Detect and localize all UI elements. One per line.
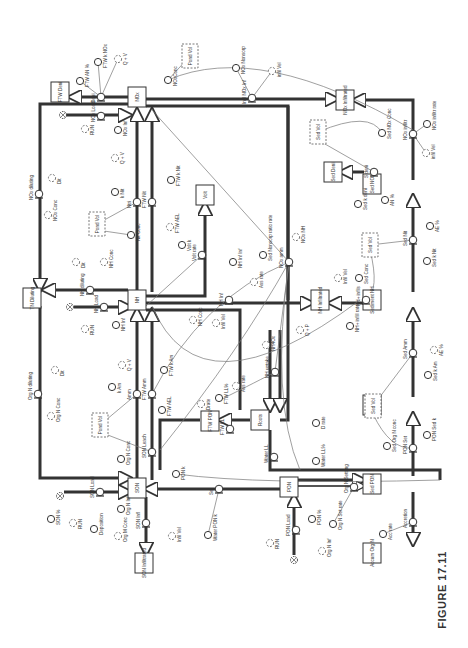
ghost-stock-pond-vol[interactable]: Pond Vol <box>92 413 108 437</box>
converter-sed-k-am[interactable]: Sed k Am <box>424 361 438 381</box>
flow-pon_set[interactable]: PON Set <box>403 435 417 454</box>
converter-org-n-inf[interactable]: Org N Inf <box>318 538 332 557</box>
converter-infil-vel[interactable]: Infil Vel <box>212 314 226 329</box>
ghost-stock-sed-vol[interactable]: Sed Vol <box>310 120 326 144</box>
converter-ftw-ael[interactable]: FTW AEL <box>158 396 172 416</box>
converter-org-m-conc[interactable]: Org M Conc <box>114 517 128 542</box>
converter-sed-nonsorp-ratio-rate[interactable]: Sed Nonsorp ratio rate <box>259 214 273 261</box>
flow-nh_load[interactable]: NH Load <box>94 294 108 313</box>
stock-son[interactable]: SON <box>128 478 146 498</box>
converter-nh-inf-inf[interactable]: NH Inf Inf <box>229 248 243 268</box>
flow-sed_amm[interactable]: Sed Amm <box>403 339 417 359</box>
converter-k-am[interactable]: k Am <box>108 383 122 393</box>
converter-nox-nh[interactable]: NOx NH <box>292 226 306 243</box>
converter-d-rate[interactable]: D rate <box>312 416 326 429</box>
ghost-stock-sed-vol[interactable]: Sed Vol <box>365 394 381 418</box>
converter-dit[interactable]: Dit <box>51 366 65 376</box>
ghost-stock-sed-vol[interactable]: Sed Vol <box>362 233 378 257</box>
converter-sed-nox-conc[interactable]: Sed NOx Conc <box>378 108 392 139</box>
stock-roots[interactable]: Roots <box>251 410 269 430</box>
converter-run[interactable]: RUN <box>81 125 95 135</box>
converter-run[interactable]: RUN <box>69 519 83 529</box>
converter-sed-conc[interactable]: Sed Conc <box>355 263 369 284</box>
flow-son_infl[interactable]: SON Infl <box>136 512 150 529</box>
ghost-stock-pond-vol[interactable]: Pond Vol <box>89 212 105 236</box>
converter-pon-k[interactable]: PON k <box>172 466 186 480</box>
converter-pon-sed-k[interactable]: PON Sed k <box>423 417 437 441</box>
stock-sed_pon[interactable]: Sed PON <box>363 474 381 494</box>
converter-nox-infiltr-rate[interactable]: NOx infiltr rate <box>423 100 437 130</box>
stock-nox[interactable]: NOx <box>128 87 146 107</box>
converter-sed-k-deni[interactable]: Sed k deni <box>354 188 368 210</box>
converter-nh-conc[interactable]: NH Conc <box>100 249 114 268</box>
flow-nox_amm[interactable]: NOx amm <box>279 247 293 268</box>
converter-k-nit[interactable]: k Nit <box>111 188 125 198</box>
converter-ass-rate[interactable]: Ass rate <box>250 271 264 288</box>
flow-set[interactable]: Set <box>209 485 223 495</box>
converter-deposition[interactable]: Deposition <box>90 513 104 535</box>
flow-sed_nit[interactable]: Sed Nit <box>403 230 417 246</box>
converter-ftw-k-nit[interactable]: FTW k Nit <box>167 165 181 186</box>
flow-s_deni[interactable]: S deni <box>364 165 378 178</box>
ghost-stock-pond-vol[interactable]: Pond Vol <box>182 44 198 68</box>
converter-dit[interactable]: Dit <box>72 258 86 268</box>
stock-tn_diluting[interactable]: TN Diluting <box>23 286 41 309</box>
converter-infil-vel[interactable]: infil Vel <box>422 144 436 159</box>
converter-sed-org-n-conc[interactable]: Sed Org N conc <box>383 419 397 452</box>
stock-sed_deni[interactable]: Sed Deni <box>324 162 342 182</box>
converter-q-p[interactable]: Q + P <box>296 324 310 336</box>
converter-son[interactable]: SON % <box>47 510 61 525</box>
converter-ae[interactable]: AE % <box>430 345 444 357</box>
stock-nox_infiltrated[interactable]: NOx Infiltrated <box>336 85 354 115</box>
converter-ftw-ll[interactable]: FTW LL% <box>215 384 229 404</box>
converter-org-n-inf[interactable]: Org N Inf <box>117 496 131 515</box>
converter-q-v[interactable]: Q + V <box>118 358 132 371</box>
flow-son_leach[interactable]: SON Leach <box>142 434 156 458</box>
stock-volt[interactable]: Volt <box>196 185 214 205</box>
converter-nox-nonsorp[interactable]: NOx Nonsorp <box>232 46 246 74</box>
stock-nh[interactable]: NH <box>128 290 146 310</box>
flow-nh_diluting[interactable]: NH diluting <box>80 273 94 296</box>
flow-amm[interactable]: Amm <box>127 389 141 400</box>
converter-nit-conc[interactable]: Nit Conc <box>127 223 141 241</box>
converter-infil-vel[interactable]: Infil Vel <box>334 269 348 284</box>
converter-q-v[interactable]: Q + V <box>111 151 125 164</box>
converter-noxconc[interactable]: NOxConc <box>164 65 178 86</box>
stock-nh_infiltrated[interactable]: NH Infiltrated <box>311 286 329 313</box>
converter-infil-vel[interactable]: infil Vel <box>268 62 282 77</box>
stock-accum_org_n[interactable]: Accum Org N <box>363 539 381 567</box>
converter-ftw-ael[interactable]: FTW AEL <box>166 213 180 233</box>
converter-pon[interactable]: PON % <box>308 510 322 525</box>
stock-ftw_deni[interactable]: FTW Deni <box>51 82 69 103</box>
converter-org-n-conc[interactable]: Org N Conc <box>47 397 61 422</box>
converter-an[interactable]: AN % <box>381 194 395 206</box>
converter-org-n-conc[interactable]: Org N Conc <box>117 440 131 465</box>
converter-ftw-k-nox[interactable]: FTW k NOx <box>94 43 108 68</box>
flow-org_n_settling[interactable]: Org N Settling <box>344 464 358 493</box>
flow-nox_infil[interactable]: NOx infiltr <box>403 119 417 140</box>
flow-ntri[interactable]: Ntri <box>127 198 141 208</box>
converter-nox-inf[interactable]: NOx Inf <box>114 120 128 136</box>
converter-ftw-k-am[interactable]: FTW k Am <box>160 354 174 376</box>
converter-volt-k[interactable]: Volt k <box>178 239 192 251</box>
converter-run[interactable]: RUN <box>266 539 280 549</box>
converter-acc-rate[interactable]: Acc rate <box>379 523 393 540</box>
converter-org-n-set-rate[interactable]: Org N Set rate <box>329 500 343 530</box>
converter-dit[interactable]: Dit <box>48 174 62 184</box>
flow-ftw_nit[interactable]: FTW Nit <box>142 190 156 208</box>
converter-nh-inf[interactable]: NH Inf <box>112 317 126 331</box>
converter-water-pon-k[interactable]: Water PON k <box>204 513 218 541</box>
converter-sed-k-nit[interactable]: Sed k Nit <box>423 248 437 267</box>
converter-water-ll[interactable]: Water LL% <box>312 444 326 467</box>
converter-infil-vel[interactable]: Infil Vel <box>168 527 182 542</box>
flow-nh_inf[interactable]: NH Inf <box>219 292 233 306</box>
stock-ftw_pon[interactable]: FTW PON <box>201 410 219 431</box>
converter-drate[interactable]: Drate <box>197 398 211 410</box>
stock-pon[interactable]: PON <box>280 477 298 497</box>
converter-ae[interactable]: AE % <box>426 221 440 233</box>
stock-son_infiltrated[interactable]: SON Infiltrated <box>135 547 153 578</box>
converter-run[interactable]: RUN <box>81 325 95 335</box>
flow-ftw_amm[interactable]: FTW Amm <box>142 378 156 400</box>
flow-accretion[interactable]: Accretion <box>403 508 417 528</box>
converter-nox-conc[interactable]: NOx Conc <box>44 199 58 221</box>
